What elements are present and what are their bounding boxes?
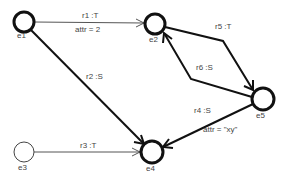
graph-canvas — [0, 0, 284, 189]
node-e5[interactable] — [252, 88, 274, 110]
node-label-e4: e4 — [146, 165, 155, 173]
node-e1[interactable] — [14, 12, 34, 32]
edge-label-r4: r4 :S — [194, 107, 211, 115]
node-label-e3: e3 — [18, 164, 27, 172]
edge-attr-r1: attr = 2 — [75, 26, 100, 34]
node-label-e5: e5 — [256, 112, 265, 120]
edge-label-r6: r6 :S — [196, 64, 213, 72]
edge-label-r1: r1 :T — [82, 12, 98, 20]
node-e3[interactable] — [14, 142, 34, 162]
edge-label-r3: r3 :T — [80, 142, 96, 150]
edge-attr-r4: attr = "xy" — [203, 126, 237, 134]
node-label-e1: e1 — [17, 32, 26, 40]
edge-label-r2: r2 :S — [86, 73, 103, 81]
node-e4[interactable] — [141, 141, 163, 163]
edge-label-r5: r5 :T — [215, 23, 231, 31]
node-label-e2: e2 — [149, 36, 158, 44]
node-e2[interactable] — [145, 14, 165, 34]
edge-r2[interactable] — [31, 30, 144, 144]
